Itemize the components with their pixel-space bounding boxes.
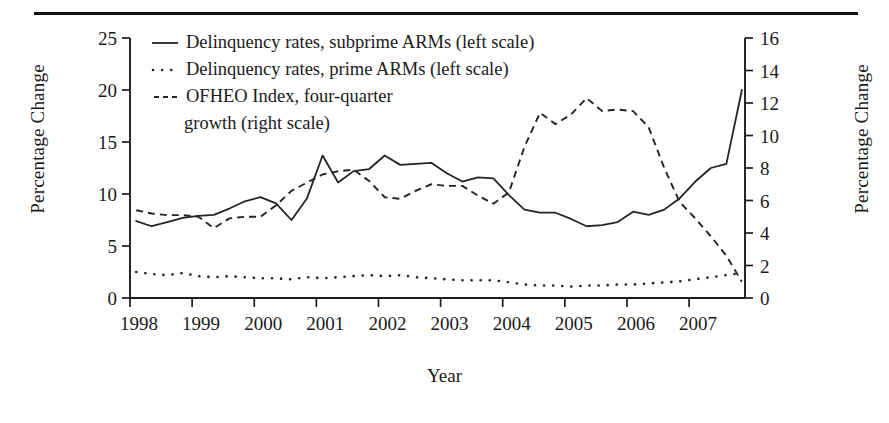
y-axis-right-tick-label: 6 <box>760 191 770 212</box>
legend-item-label: growth (right scale) <box>184 113 330 134</box>
chart-plot-area: 0510152025024681012141619981999200020012… <box>0 0 889 423</box>
y-axis-right-tick-label: 12 <box>760 93 779 114</box>
y-axis-right-tick-label: 2 <box>760 256 770 277</box>
figure-chart-container: Percentage Change Percentage Change Year… <box>0 0 889 423</box>
series-line-dotted <box>136 272 742 287</box>
y-axis-left-tick-label: 5 <box>108 236 118 257</box>
y-axis-left-tick-label: 25 <box>98 28 117 49</box>
legend-item-label: Delinquency rates, prime ARMs (left scal… <box>186 59 509 80</box>
legend-item-label: Delinquency rates, subprime ARMs (left s… <box>186 32 534 53</box>
y-axis-left-tick-label: 15 <box>98 132 117 153</box>
x-axis-tick-label: 2006 <box>617 313 655 334</box>
x-axis-tick-label: 1999 <box>182 313 220 334</box>
x-axis-tick-label: 2005 <box>555 313 593 334</box>
series-line-solid <box>136 90 742 226</box>
y-axis-left-tick-label: 10 <box>98 184 117 205</box>
x-axis-tick-label: 2004 <box>493 313 532 334</box>
y-axis-left-tick-label: 20 <box>98 80 117 101</box>
x-axis-tick-label: 2003 <box>431 313 469 334</box>
y-axis-right-tick-label: 4 <box>760 223 770 244</box>
legend-item-label: OFHEO Index, four-quarter <box>186 86 393 106</box>
y-axis-right-tick-label: 10 <box>760 126 779 147</box>
x-axis-tick-label: 2007 <box>679 313 717 334</box>
y-axis-right-tick-label: 8 <box>760 158 770 179</box>
y-axis-right-tick-label: 14 <box>760 61 780 82</box>
x-axis-tick-label: 2002 <box>368 313 406 334</box>
y-axis-left-tick-label: 0 <box>108 288 118 309</box>
x-axis-tick-label: 1998 <box>120 313 158 334</box>
y-axis-right-tick-label: 0 <box>760 288 770 309</box>
x-axis-tick-label: 2000 <box>244 313 282 334</box>
y-axis-right-tick-label: 16 <box>760 28 779 49</box>
chart-legend: Delinquency rates, subprime ARMs (left s… <box>152 32 534 134</box>
x-axis-tick-label: 2001 <box>306 313 344 334</box>
